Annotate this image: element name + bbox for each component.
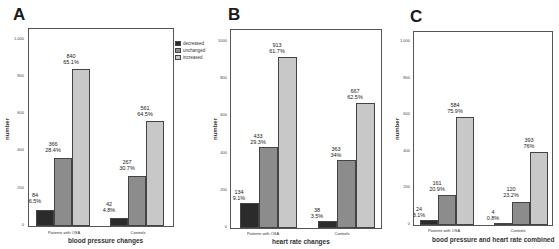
x-axis-label: bood pressure and heart rate combined xyxy=(432,236,554,243)
y-axis-label: number xyxy=(4,118,10,140)
y-tick-label: 400 xyxy=(6,147,24,152)
plot-area xyxy=(413,31,553,226)
y-tick-label: 0 xyxy=(209,224,227,229)
bar-label: 1349.1% xyxy=(224,189,254,201)
bar-label: 36628.4% xyxy=(38,141,68,153)
bar-label: 26730.7% xyxy=(112,159,142,171)
bar-label: 91361.7% xyxy=(262,42,292,54)
bar-label: 36334% xyxy=(321,146,351,158)
bar-label: 56164.5% xyxy=(130,105,160,117)
y-tick-label: 800 xyxy=(6,73,24,78)
y-axis-label: number xyxy=(212,118,218,140)
bar-label: 424.8% xyxy=(94,201,124,213)
bar-decreased-controls xyxy=(110,218,128,226)
bar-label: 243.1% xyxy=(404,206,434,218)
x-tick-label: Patients with OSA xyxy=(34,230,94,235)
bars-container xyxy=(414,32,552,225)
y-tick-label: 600 xyxy=(209,112,227,117)
bar-increased-osa xyxy=(456,117,474,225)
bar-unchanged-controls xyxy=(337,160,356,228)
x-axis-label: blood pressure changes xyxy=(68,237,143,244)
bar-label: 66762.5% xyxy=(340,88,370,100)
bar-unchanged-osa xyxy=(54,158,72,226)
bar-label: 43329.3% xyxy=(243,133,273,145)
panel-b: B 1349.1% 43329.3% 91361.7% 383.5% 36334… xyxy=(188,0,378,249)
y-tick-label: 1000 xyxy=(209,38,227,43)
bar-decreased-controls xyxy=(494,223,512,225)
bar-decreased-controls xyxy=(318,221,337,228)
y-tick-label: 800 xyxy=(392,75,410,80)
bar-label: 846.5% xyxy=(20,192,50,204)
bar-decreased-osa xyxy=(420,220,438,225)
bar-increased-osa xyxy=(72,69,90,226)
legend-swatch xyxy=(175,41,181,46)
bar-unchanged-osa xyxy=(438,195,456,225)
y-tick-label: 400 xyxy=(392,148,410,153)
y-tick-label: 1.000 xyxy=(6,36,24,41)
y-tick-label: 200 xyxy=(209,187,227,192)
y-tick-label: 200 xyxy=(6,185,24,190)
y-tick-label: 800 xyxy=(209,75,227,80)
bar-unchanged-controls xyxy=(128,176,146,226)
bar-unchanged-osa xyxy=(259,147,278,228)
y-tick-label: 1.000 xyxy=(392,38,410,43)
bar-label: 84065.1% xyxy=(56,53,86,65)
bar-decreased-osa xyxy=(36,210,54,226)
bar-unchanged-controls xyxy=(512,202,530,225)
bar-label: 39376% xyxy=(514,137,544,149)
x-tick-label: Controls xyxy=(108,230,168,235)
bar-decreased-osa xyxy=(240,203,259,228)
y-tick-label: 0 xyxy=(392,221,410,226)
bar-label: 16120.9% xyxy=(422,180,452,192)
panel-letter: A xyxy=(13,5,25,25)
legend-swatch xyxy=(175,55,181,60)
panel-c: C 243.1% 16120.9% 58475.9% 40.8% 12023.2… xyxy=(370,0,559,249)
x-tick-label: Controls xyxy=(488,228,548,233)
x-tick-label: Patients with OSA xyxy=(233,231,293,236)
y-tick-label: 200 xyxy=(392,184,410,189)
x-tick-label: Controls xyxy=(312,231,372,236)
y-tick-label: 400 xyxy=(209,150,227,155)
bar-increased-controls xyxy=(146,121,164,226)
legend-swatch xyxy=(175,48,181,53)
bars-container xyxy=(29,29,173,226)
panel-letter: C xyxy=(410,7,422,27)
y-tick-label: 0 xyxy=(6,222,24,227)
y-axis-label: number xyxy=(394,118,400,140)
bar-increased-osa xyxy=(278,57,297,228)
x-axis-label: heart rate changes xyxy=(272,238,330,245)
bar-label: 383.5% xyxy=(302,207,332,219)
x-tick-label: Patients with OSA xyxy=(414,228,474,233)
bar-label: 58475.9% xyxy=(440,102,470,114)
bar-increased-controls xyxy=(530,152,548,225)
y-tick-label: 600 xyxy=(6,110,24,115)
panel-letter: B xyxy=(228,5,240,25)
bar-label: 12023.2% xyxy=(496,186,526,198)
bar-label: 40.8% xyxy=(478,209,508,221)
y-tick-label: 600 xyxy=(392,111,410,116)
